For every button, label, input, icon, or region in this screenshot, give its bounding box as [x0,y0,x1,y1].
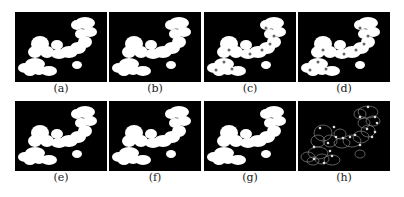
caption-h: (h) [298,172,390,184]
segmentation-mask-image [109,101,201,171]
segmentation-mask-image [204,101,296,171]
panel-c [204,12,296,82]
segmentation-mask-image [109,12,201,82]
panel-f [109,101,201,171]
segmentation-mask-image [15,101,107,171]
segmentation-mask-image [298,12,390,82]
panel-a [15,12,107,82]
caption-b: (b) [109,83,201,95]
segmentation-mask-image [204,12,296,82]
caption-d: (d) [298,83,390,95]
caption-g: (g) [204,172,296,184]
caption-f: (f) [109,172,201,184]
caption-e: (e) [15,172,107,184]
panel-e [15,101,107,171]
panel-h [298,101,390,171]
caption-c: (c) [204,83,296,95]
contour-image [298,101,390,171]
panel-b [109,12,201,82]
caption-a: (a) [15,83,107,95]
panel-d [298,12,390,82]
panel-g [204,101,296,171]
segmentation-mask-image [15,12,107,82]
